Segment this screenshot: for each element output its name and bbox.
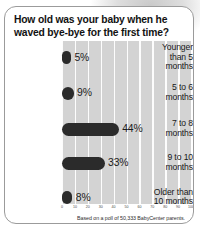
bar <box>62 191 72 204</box>
category-label: 5 to 6months <box>135 83 193 103</box>
bar <box>62 157 105 170</box>
bar <box>62 51 71 64</box>
chart-card: How old was your baby when he waved bye-… <box>4 6 194 224</box>
category-label-line: months <box>135 163 193 173</box>
bar <box>62 87 74 100</box>
bar-value-label: 33% <box>108 157 128 168</box>
bar-value-label: 8% <box>76 192 91 203</box>
x-tick-label: 90 <box>176 205 180 209</box>
chart-title: How old was your baby when he waved bye-… <box>14 14 190 39</box>
bar-value-label: 44% <box>122 123 142 134</box>
x-tick-label: 0 <box>61 205 63 209</box>
x-tick-label: 100 <box>188 205 194 209</box>
bar-value-label: 9% <box>77 87 92 98</box>
category-label: 7 to 8months <box>135 119 193 139</box>
category-label: Youngerthan 5months <box>135 43 193 72</box>
x-axis-ticks: 0102030405060708090100 <box>62 205 191 213</box>
x-tick-label: 80 <box>163 205 167 209</box>
bar <box>62 123 119 136</box>
x-tick-label: 50 <box>125 205 129 209</box>
category-label-line: months <box>135 93 193 103</box>
x-tick-label: 40 <box>112 205 116 209</box>
x-tick-label: 20 <box>86 205 90 209</box>
category-label-line: months <box>135 129 193 139</box>
bar-value-label: 5% <box>75 52 90 63</box>
x-tick-label: 70 <box>150 205 154 209</box>
category-label-line: months <box>135 62 193 72</box>
x-tick-label: 10 <box>73 205 77 209</box>
x-tick-label: 60 <box>137 205 141 209</box>
chart-footnote: Based on a poll of 50,333 BabyCenter par… <box>5 215 191 221</box>
x-tick-label: 30 <box>99 205 103 209</box>
category-label: 9 to 10months <box>135 153 193 173</box>
